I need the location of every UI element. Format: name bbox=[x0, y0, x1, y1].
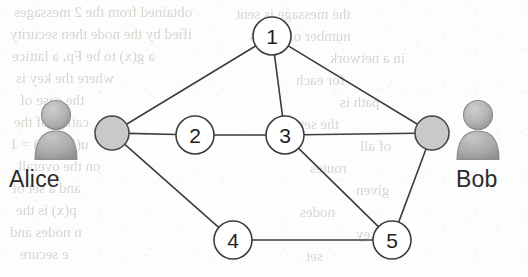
relay-node-label-4: 4 bbox=[227, 229, 239, 252]
endpoint-node-alice bbox=[95, 116, 129, 150]
figure-canvas: obtained from the 2 messagesified by the… bbox=[0, 0, 528, 277]
relay-node-label-3: 3 bbox=[279, 124, 291, 147]
person-avatar-icon bbox=[30, 98, 82, 160]
endpoint-label-bob: Bob bbox=[456, 168, 498, 191]
graph-edge bbox=[398, 148, 426, 223]
endpoint-label-alice: Alice bbox=[9, 168, 60, 191]
relay-node-label-2: 2 bbox=[189, 124, 201, 147]
graph-edge bbox=[298, 148, 379, 228]
graph-edge bbox=[287, 45, 418, 124]
relay-node-label-1: 1 bbox=[266, 25, 278, 48]
graph-edge bbox=[303, 133, 416, 135]
endpoint-node-bob bbox=[415, 116, 449, 150]
graph-edge bbox=[124, 144, 220, 228]
graph-node-group: 12345 bbox=[95, 17, 449, 259]
graph-edge bbox=[274, 54, 282, 117]
person-avatar-icon bbox=[452, 98, 504, 160]
graph-edge bbox=[126, 45, 257, 124]
relay-node-label-5: 5 bbox=[386, 229, 398, 252]
graph-edge bbox=[128, 133, 177, 134]
